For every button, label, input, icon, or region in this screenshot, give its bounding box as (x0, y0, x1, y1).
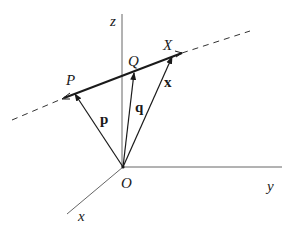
vector-x-label: x (164, 74, 172, 90)
x-axis (67, 167, 123, 214)
y-axis-label: y (265, 178, 274, 194)
vector-p (75, 94, 123, 167)
point-p-label: P (65, 72, 75, 88)
line-extension-right (182, 31, 250, 53)
line-extension-left (12, 98, 64, 120)
x-axis-label: x (77, 208, 85, 224)
vector-q (123, 73, 134, 167)
z-axis-label: z (109, 13, 116, 29)
origin-point (121, 165, 124, 168)
vector-p-label: p (100, 111, 108, 127)
point-x-label: X (162, 37, 173, 53)
point-q-label: Q (128, 53, 139, 69)
line-vector-diagram: z y x O P Q X p q x (0, 0, 293, 234)
origin-label: O (121, 175, 132, 191)
vector-q-label: q (135, 99, 144, 115)
